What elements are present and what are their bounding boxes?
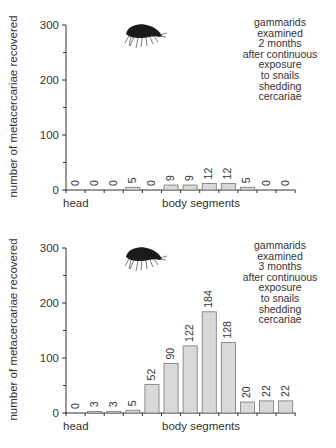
figure: number of metacercariae recovered0100200… xyxy=(0,0,336,448)
y-tick-label: 200 xyxy=(40,297,59,309)
x-axis-label: body segments xyxy=(162,197,240,209)
bar xyxy=(145,384,159,413)
bar xyxy=(107,411,121,413)
bar-value-label: 0 xyxy=(107,180,119,186)
bar-value-label: 90 xyxy=(164,348,176,360)
bar xyxy=(221,183,235,190)
chart-3-months: number of metacercariae recovered0100200… xyxy=(7,238,317,432)
bar-value-label: 22 xyxy=(279,385,291,397)
bar-value-label: 52 xyxy=(145,369,157,381)
bar-value-label: 0 xyxy=(69,180,81,186)
x-axis-label: body segments xyxy=(162,420,240,432)
x-label-head: head xyxy=(63,420,89,432)
bar-value-label: 0 xyxy=(279,180,291,186)
bar-value-label: 184 xyxy=(202,290,214,308)
bar xyxy=(260,401,274,413)
bar-value-label: 12 xyxy=(202,168,214,180)
y-tick-label: 300 xyxy=(40,242,59,254)
x-label-head: head xyxy=(63,197,89,209)
annotation-line: cercariae xyxy=(258,90,301,102)
bar xyxy=(202,183,216,190)
bar xyxy=(126,410,140,413)
y-tick-label: 0 xyxy=(53,407,59,419)
bar-value-label: 0 xyxy=(145,180,157,186)
bar xyxy=(202,312,216,413)
bar-value-label: 20 xyxy=(240,386,252,398)
bar-value-label: 3 xyxy=(88,401,100,407)
y-tick-label: 100 xyxy=(40,352,59,364)
y-tick-label: 200 xyxy=(40,74,59,86)
chart-2-months: number of metacercariae recovered0100200… xyxy=(7,15,317,209)
bar xyxy=(221,343,235,413)
bar-value-label: 5 xyxy=(126,400,138,406)
bar-value-label: 128 xyxy=(221,321,233,339)
y-tick-label: 0 xyxy=(53,184,59,196)
y-axis-label: number of metacercariae recovered xyxy=(7,238,19,420)
annotation-line: cercariae xyxy=(258,313,301,325)
bar xyxy=(183,185,197,190)
y-axis-label: number of metacercariae recovered xyxy=(7,15,19,197)
bar-value-label: 122 xyxy=(183,324,195,342)
y-tick-label: 100 xyxy=(40,129,59,141)
bar xyxy=(240,402,254,413)
bar-value-label: 3 xyxy=(107,401,119,407)
bar-value-label: 9 xyxy=(183,175,195,181)
bar xyxy=(126,187,140,190)
bar xyxy=(240,187,254,190)
bar-value-label: 22 xyxy=(260,385,272,397)
gammarid-amphipod-icon xyxy=(125,24,167,48)
bar-value-label: 5 xyxy=(126,177,138,183)
bar xyxy=(88,411,102,413)
bar xyxy=(279,401,293,413)
bar xyxy=(164,185,178,190)
y-tick-label: 300 xyxy=(40,19,59,31)
bar xyxy=(164,364,178,414)
bar-value-label: 0 xyxy=(88,180,100,186)
bar-value-label: 5 xyxy=(240,177,252,183)
gammarid-amphipod-icon xyxy=(125,247,167,271)
bar-value-label: 12 xyxy=(221,168,233,180)
bar-value-label: 0 xyxy=(69,403,81,409)
bar-value-label: 0 xyxy=(260,180,272,186)
bar xyxy=(183,346,197,413)
bar-value-label: 9 xyxy=(164,175,176,181)
